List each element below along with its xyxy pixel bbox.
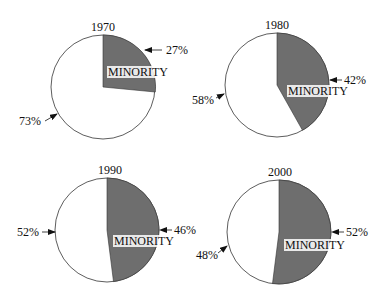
pie-1980: 1980 MINORITY 42% 58% bbox=[192, 18, 366, 137]
arrow-icon bbox=[331, 229, 339, 235]
minority-pct: 42% bbox=[344, 73, 366, 87]
minority-pct: 27% bbox=[166, 43, 188, 57]
minority-pct: 46% bbox=[174, 223, 196, 237]
minority-label: MINORITY bbox=[108, 65, 168, 79]
pie-chart-grid: 1970 MINORITY 27% 73% 1980 MINORITY 42% … bbox=[0, 0, 391, 302]
pie-title: 1990 bbox=[98, 163, 122, 177]
majority-pct: 52% bbox=[17, 225, 39, 239]
minority-label: MINORITY bbox=[114, 234, 174, 248]
arrow-icon bbox=[218, 246, 227, 253]
arrow-icon bbox=[329, 77, 337, 83]
minority-slice bbox=[107, 178, 159, 282]
majority-pct: 48% bbox=[196, 248, 218, 262]
pie-1990: 1990 MINORITY 46% 52% bbox=[17, 163, 196, 282]
minority-pct: 52% bbox=[346, 225, 368, 239]
minority-label: MINORITY bbox=[285, 238, 345, 252]
arrow-icon bbox=[216, 94, 224, 98]
arrow-icon bbox=[45, 114, 57, 121]
pie-title: 2000 bbox=[268, 165, 292, 179]
minority-slice bbox=[103, 35, 156, 92]
majority-pct: 58% bbox=[192, 93, 214, 107]
pie-1970: 1970 MINORITY 27% 73% bbox=[19, 20, 188, 139]
arrow-icon bbox=[159, 227, 167, 233]
majority-pct: 73% bbox=[19, 114, 41, 128]
pie-title: 1970 bbox=[91, 20, 115, 34]
minority-label: MINORITY bbox=[288, 84, 348, 98]
pie-2000: 2000 MINORITY 52% 48% bbox=[196, 165, 368, 284]
minority-slice bbox=[273, 180, 331, 284]
pie-title: 1980 bbox=[265, 18, 289, 32]
